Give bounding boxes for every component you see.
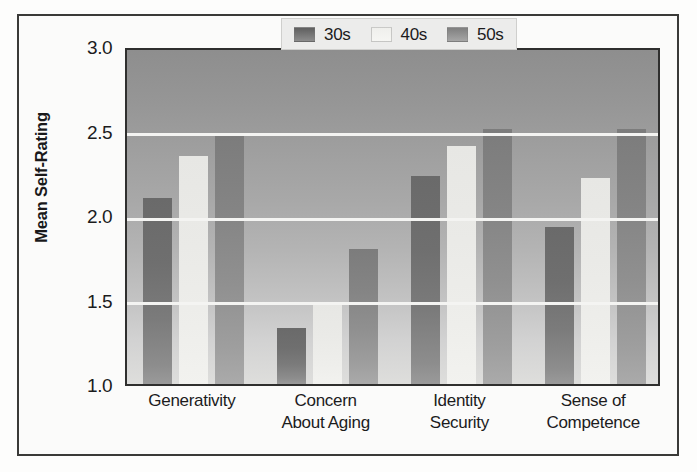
legend-swatch-50s-icon xyxy=(447,27,468,42)
bar-30s-concern-about-aging xyxy=(277,328,306,384)
x-axis-label-line: Concern xyxy=(295,391,357,410)
legend-label: 50s xyxy=(477,26,504,43)
legend-item-40s: 40s xyxy=(371,26,428,43)
bar-40s-generativity xyxy=(179,156,208,384)
y-tick-label: 1.0 xyxy=(66,376,112,395)
bar-50s-generativity xyxy=(215,134,244,384)
bar-series-group xyxy=(127,50,658,384)
bar-40s-concern-about-aging xyxy=(313,303,342,384)
bar-50s-concern-about-aging xyxy=(349,249,378,384)
legend-label: 30s xyxy=(324,26,351,43)
x-axis-label-line: Generativity xyxy=(148,391,235,410)
bar-40s-sense-of-competence xyxy=(581,178,610,384)
x-axis-label-line: Identity xyxy=(433,391,485,410)
legend-item-30s: 30s xyxy=(294,26,351,43)
bar-50s-sense-of-competence xyxy=(617,129,646,384)
plot-area xyxy=(125,48,660,386)
y-tick-label: 2.0 xyxy=(66,207,112,226)
bar-40s-identity-security xyxy=(447,146,476,384)
bar-50s-identity-security xyxy=(483,129,512,384)
x-axis-category-labels: GenerativityConcernAbout AgingIdentitySe… xyxy=(125,390,660,450)
legend-item-50s: 50s xyxy=(447,26,504,43)
y-tick-label: 2.5 xyxy=(66,123,112,142)
bar-30s-identity-security xyxy=(411,176,440,384)
y-axis-title: Mean Self-Rating xyxy=(32,83,51,273)
y-axis-tick-labels: 3.02.52.01.51.0 xyxy=(62,0,112,472)
x-axis-label-sense-of-competence: Sense ofCompetence xyxy=(514,390,672,434)
legend-swatch-40s-icon xyxy=(371,27,392,42)
y-tick-label: 3.0 xyxy=(66,38,112,57)
x-axis-label-line: Sense of xyxy=(561,391,626,410)
y-tick-label: 1.5 xyxy=(66,292,112,311)
legend-label: 40s xyxy=(401,26,428,43)
chart-legend: 30s40s50s xyxy=(281,18,517,50)
bar-30s-generativity xyxy=(143,198,172,384)
bar-30s-sense-of-competence xyxy=(545,227,574,384)
figure-container: Mean Self-Rating 3.02.52.01.51.0 30s40s5… xyxy=(0,0,697,472)
x-axis-label-line: Competence xyxy=(514,412,672,434)
legend-swatch-30s-icon xyxy=(294,27,315,42)
